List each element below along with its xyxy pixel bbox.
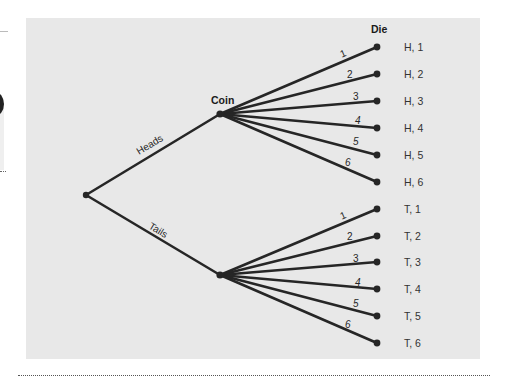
leaf-node [374, 71, 381, 78]
leaf-node [374, 259, 381, 266]
heads-face-label: 5 [353, 136, 359, 147]
outcome-label: T, 6 [404, 337, 421, 349]
outcome-label: H, 5 [404, 149, 423, 161]
root-node [83, 192, 89, 198]
heads-face-label: 3 [353, 91, 359, 102]
outcome-label: H, 3 [404, 95, 423, 107]
outcome-label: H, 2 [404, 68, 423, 80]
leaf-node [374, 98, 381, 105]
coin-stage-label: Coin [211, 94, 234, 106]
outcome-label: T, 1 [404, 203, 421, 215]
tails-face-label: 6 [345, 319, 351, 330]
dotted-divider [18, 375, 490, 376]
heads-branch [86, 114, 220, 195]
leaf-node [374, 152, 381, 159]
leaf-node [374, 125, 381, 132]
outcome-label: T, 2 [404, 230, 421, 242]
outcome-label: H, 4 [404, 122, 423, 134]
tails-face-label: 3 [353, 253, 359, 264]
tails-branch [86, 195, 220, 275]
outcome-label: T, 4 [404, 283, 421, 295]
leaf-node [374, 286, 381, 293]
tree-diagram: Coin Die Heads Tails 1 2 3 4 5 6 1 2 3 4… [0, 0, 506, 380]
heads-node [216, 110, 223, 117]
leaf-node [374, 233, 381, 240]
tails-face-label: 4 [355, 277, 361, 288]
heads-branch-label: Heads [134, 132, 164, 156]
heads-face-label: 2 [347, 69, 353, 80]
leaf-node [374, 340, 381, 347]
die-stage-label: Die [371, 23, 388, 35]
leaf-node [374, 44, 381, 51]
heads-face-label: 1 [338, 47, 348, 59]
leaf-node [374, 179, 381, 186]
outcome-label: H, 6 [404, 176, 423, 188]
tails-node [216, 271, 223, 278]
tails-face-label: 2 [347, 231, 353, 242]
outcome-label: T, 5 [404, 310, 421, 322]
leaf-node [374, 206, 381, 213]
leaf-node [374, 313, 381, 320]
heads-face-label: 4 [355, 115, 361, 126]
heads-face-label: 6 [345, 157, 351, 168]
outcome-label: H, 1 [404, 41, 423, 53]
tails-face-label: 5 [353, 298, 359, 309]
tails-face-label: 1 [338, 209, 348, 221]
outcome-label: T, 3 [404, 256, 421, 268]
